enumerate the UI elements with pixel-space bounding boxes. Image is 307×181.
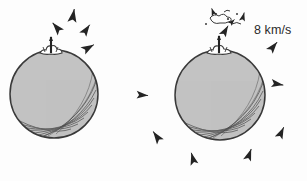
velocity-label: 8 km/s [254, 23, 291, 37]
